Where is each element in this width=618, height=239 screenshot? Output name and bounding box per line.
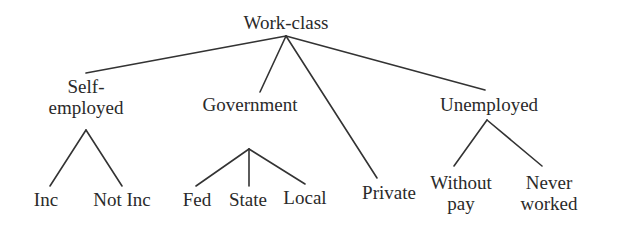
node-never-worked-line2: worked [521, 193, 578, 214]
node-without-pay: Without pay [430, 172, 492, 214]
edge-selfemployed-inc [50, 130, 86, 186]
edge-unemployed-neverworked [487, 120, 542, 166]
node-self-employed-line2: employed [49, 97, 124, 118]
node-local: Local [283, 187, 326, 208]
node-private: Private [362, 182, 416, 203]
node-self-employed: Self- employed [49, 76, 124, 118]
node-state: State [229, 189, 267, 210]
edge-unemployed-withoutpay [454, 120, 487, 166]
edge-workclass-government [260, 36, 286, 92]
edge-government-local [249, 149, 305, 184]
edge-selfemployed-notinc [86, 130, 122, 186]
node-self-employed-line1: Self- [49, 76, 124, 97]
node-inc: Inc [34, 189, 58, 210]
node-without-pay-line1: Without [430, 172, 492, 193]
node-unemployed: Unemployed [440, 94, 538, 115]
node-work-class: Work-class [244, 12, 329, 33]
node-without-pay-line2: pay [430, 193, 492, 214]
node-never-worked: Never worked [521, 172, 578, 214]
edge-government-fed [196, 149, 249, 186]
node-never-worked-line1: Never [521, 172, 578, 193]
node-not-inc: Not Inc [93, 189, 151, 210]
node-government: Government [203, 94, 298, 115]
node-fed: Fed [183, 189, 212, 210]
edge-workclass-selfemployed [86, 36, 286, 73]
